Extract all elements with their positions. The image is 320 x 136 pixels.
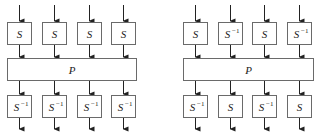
inverse-superscript: −1 bbox=[91, 100, 99, 108]
permutation-box: P bbox=[8, 59, 137, 81]
p-box-label: P bbox=[244, 64, 252, 76]
box-label: S bbox=[297, 101, 303, 113]
box-label: S bbox=[87, 28, 93, 40]
box-label: S bbox=[294, 28, 300, 40]
sbox-bottom-1: S−1 bbox=[8, 96, 32, 118]
permutation-box: P bbox=[184, 59, 314, 81]
p-box-label: P bbox=[68, 64, 76, 76]
sbox-top-3: S bbox=[78, 23, 102, 45]
box-label: S bbox=[193, 28, 199, 40]
sbox-bottom-3: S−1 bbox=[78, 96, 102, 118]
inverse-superscript: −1 bbox=[125, 100, 133, 108]
box-label: S bbox=[49, 101, 55, 113]
inverse-superscript: −1 bbox=[21, 100, 29, 108]
box-label: S bbox=[52, 28, 58, 40]
inverse-superscript: −1 bbox=[56, 100, 64, 108]
sbox-bottom-2: S bbox=[219, 96, 243, 118]
sbox-bottom-1: S−1 bbox=[184, 96, 208, 118]
box-label: S bbox=[262, 28, 268, 40]
sbox-top-4: S−1 bbox=[288, 23, 312, 45]
sbox-top-1: S bbox=[184, 23, 208, 45]
diagram-left: SS−1SS−1SS−1SS−1P bbox=[8, 5, 137, 129]
sbox-top-1: S bbox=[8, 23, 32, 45]
sbox-top-2: S bbox=[43, 23, 67, 45]
inverse-superscript: −1 bbox=[266, 100, 274, 108]
box-label: S bbox=[228, 101, 234, 113]
sbox-bottom-4: S−1 bbox=[112, 96, 136, 118]
box-label: S bbox=[190, 101, 196, 113]
box-label: S bbox=[259, 101, 265, 113]
diagram-right: SS−1S−1SSS−1S−1SP bbox=[184, 5, 314, 129]
sbox-bottom-3: S−1 bbox=[253, 96, 277, 118]
inverse-superscript: −1 bbox=[197, 100, 205, 108]
sbox-top-3: S bbox=[253, 23, 277, 45]
box-label: S bbox=[14, 101, 20, 113]
sbox-top-4: S bbox=[112, 23, 136, 45]
box-label: S bbox=[118, 101, 124, 113]
sbox-top-2: S−1 bbox=[219, 23, 243, 45]
inverse-superscript: −1 bbox=[301, 27, 309, 35]
box-label: S bbox=[17, 28, 23, 40]
inverse-superscript: −1 bbox=[232, 27, 240, 35]
box-label: S bbox=[225, 28, 231, 40]
box-label: S bbox=[121, 28, 127, 40]
sbox-bottom-4: S bbox=[288, 96, 312, 118]
sbox-bottom-2: S−1 bbox=[43, 96, 67, 118]
box-label: S bbox=[84, 101, 90, 113]
spn-diagram-canvas: SS−1SS−1SS−1SS−1P SS−1S−1SSS−1S−1SP bbox=[0, 0, 320, 136]
